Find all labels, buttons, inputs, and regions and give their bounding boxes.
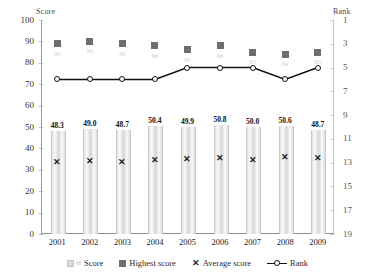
highest-score-label: 89 (119, 50, 126, 57)
highest-score-marker[interactable] (217, 42, 224, 49)
rank-point[interactable] (315, 65, 321, 71)
highest-score-marker[interactable] (54, 40, 61, 47)
rank-point[interactable] (184, 65, 190, 71)
bar-value-label: 50.4 (148, 116, 161, 125)
average-score-marker[interactable]: ✕ (281, 153, 289, 161)
data-column: 48.389✕ (41, 20, 74, 234)
highest-score-label: 89 (54, 50, 61, 57)
bar-value-label: 48.7 (116, 120, 129, 129)
bar-value-label: 48.3 (51, 121, 64, 130)
bar-value-label: 50.6 (279, 116, 292, 125)
average-score-marker[interactable]: ✕ (249, 156, 257, 164)
data-column: 50.085✕ (236, 20, 269, 234)
highest-score-marker[interactable] (119, 40, 126, 47)
square-marker-icon (119, 260, 126, 267)
highest-score-marker[interactable] (314, 49, 321, 56)
y-tick-right-5: 5 (343, 63, 363, 72)
average-score-marker[interactable]: ✕ (314, 154, 322, 162)
x-tick-label-2001: 2001 (41, 237, 74, 247)
bar-value-label: 49.0 (83, 119, 96, 128)
y-axis-title-left: Score (36, 7, 55, 16)
highest-score-marker[interactable] (86, 38, 93, 45)
rank-point[interactable] (119, 76, 125, 82)
highest-score-marker[interactable] (249, 49, 256, 56)
highest-score-label: 90 (87, 47, 94, 54)
data-column: 49.986✕ (171, 20, 204, 234)
average-score-marker[interactable]: ✕ (151, 156, 159, 164)
rank-point[interactable] (282, 76, 288, 82)
rank-point[interactable] (217, 65, 223, 71)
y-tick-left-100: 100 (8, 16, 34, 25)
y-tick-right-9: 9 (343, 111, 363, 120)
data-column: 48.785✕ (301, 20, 334, 234)
y-tick-left-40: 40 (8, 144, 34, 153)
chart-canvas: Score Rank 1009080706050403020100 135791… (0, 0, 375, 278)
x-marker-icon: ✕ (192, 258, 200, 268)
bar-score[interactable] (83, 129, 98, 234)
legend-label: Rank (290, 258, 308, 268)
y-tick-left-60: 60 (8, 101, 34, 110)
highest-score-marker[interactable] (184, 46, 191, 53)
legend-item-score[interactable]: Score (67, 258, 103, 268)
x-tick-label-2009: 2009 (301, 237, 334, 247)
bar-score[interactable] (246, 127, 261, 234)
y-tick-left-30: 30 (8, 165, 34, 174)
y-tick-left-80: 80 (8, 58, 34, 67)
y-tickmark-left (39, 234, 43, 235)
bar-value-label: 50.8 (213, 115, 226, 124)
y-tick-right-19: 19 (343, 230, 363, 239)
x-tick-label-2008: 2008 (269, 237, 302, 247)
data-column: 49.090✕ (74, 20, 107, 234)
rank-point[interactable] (250, 65, 256, 71)
x-tick-label-2002: 2002 (74, 237, 107, 247)
legend-item-rank[interactable]: Rank (267, 258, 308, 268)
legend-label: Highest score (129, 258, 176, 268)
y-tick-right-17: 17 (343, 206, 363, 215)
average-score-marker[interactable]: ✕ (216, 154, 224, 162)
y-tick-right-15: 15 (343, 182, 363, 191)
data-column: 50.888✕ (204, 20, 237, 234)
average-score-marker[interactable]: ✕ (118, 158, 126, 166)
y-tick-right-7: 7 (343, 87, 363, 96)
rank-point[interactable] (152, 76, 158, 82)
rank-point[interactable] (87, 76, 93, 82)
legend-label: Average score (203, 258, 251, 268)
bar-swatch-icon (67, 260, 81, 267)
bar-score[interactable] (311, 130, 326, 234)
x-tick-label-2006: 2006 (204, 237, 237, 247)
data-column: 48.789✕ (106, 20, 139, 234)
average-score-marker[interactable]: ✕ (53, 158, 61, 166)
bar-score[interactable] (51, 131, 66, 234)
bar-score[interactable] (279, 126, 294, 234)
legend-item-highest-score[interactable]: Highest score (119, 258, 176, 268)
bar-value-label: 50.0 (246, 117, 259, 126)
y-tickmark-right (330, 234, 334, 235)
bar-score[interactable] (214, 125, 229, 234)
average-score-marker[interactable]: ✕ (86, 157, 94, 165)
y-tick-left-20: 20 (8, 187, 34, 196)
bar-score[interactable] (181, 127, 196, 234)
highest-score-label: 86 (184, 56, 191, 63)
bar-score[interactable] (148, 126, 163, 234)
highest-score-marker[interactable] (151, 42, 158, 49)
bar-value-label: 49.9 (181, 117, 194, 126)
rank-point[interactable] (54, 76, 60, 82)
average-score-marker[interactable]: ✕ (183, 155, 191, 163)
y-tick-right-3: 3 (343, 39, 363, 48)
legend-label: Score (84, 258, 103, 268)
highest-score-marker[interactable] (282, 51, 289, 58)
y-tick-right-13: 13 (343, 158, 363, 167)
x-tick-label-2004: 2004 (139, 237, 172, 247)
y-tick-left-0: 0 (8, 230, 34, 239)
y-tick-right-1: 1 (343, 16, 363, 25)
plot-area: 48.389✕49.090✕48.789✕50.488✕49.986✕50.88… (41, 20, 334, 234)
chart-legend: ScoreHighest score✕Average scoreRank (0, 255, 375, 271)
legend-item-average-score[interactable]: ✕Average score (192, 258, 251, 268)
data-column: 50.684✕ (269, 20, 302, 234)
x-tick-label-2003: 2003 (106, 237, 139, 247)
x-tick-label-2007: 2007 (236, 237, 269, 247)
y-tick-left-10: 10 (8, 208, 34, 217)
bar-score[interactable] (116, 130, 131, 234)
highest-score-label: 88 (152, 52, 159, 59)
bar-value-label: 48.7 (311, 120, 324, 129)
